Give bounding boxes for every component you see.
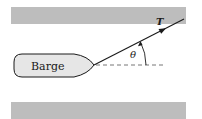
barge-tension-diagram: Barge T θ [0, 0, 202, 119]
barge-label: Barge [31, 60, 64, 73]
bottom-bank [11, 102, 186, 119]
angle-theta-label: θ [130, 49, 136, 60]
